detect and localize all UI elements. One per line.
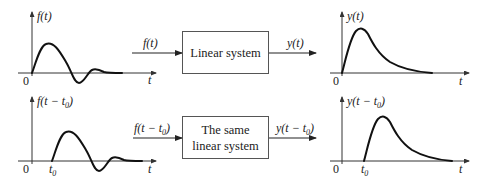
x-axis-label: t	[459, 162, 463, 176]
shift-label: t0	[361, 162, 368, 178]
shifted-output-signal-curve	[364, 117, 452, 161]
x-axis-label: t	[459, 74, 463, 88]
input-plot-bottom: f(t − t0) 0 t0 t	[18, 94, 156, 178]
system-box-label-line2: linear system	[192, 139, 259, 153]
system-box-top: Linear system	[183, 32, 269, 74]
system-box-bottom: The same linear system	[183, 117, 269, 159]
input-arrow-top: f(t)	[132, 36, 182, 53]
output-plot-bottom: y(t − t0) 0 t0 t	[330, 94, 469, 178]
output-arrow-label: y(t)	[286, 36, 304, 50]
output-plot-top: y(t) 0 t	[330, 9, 469, 88]
input-arrow-label: f(t − t0)	[134, 121, 170, 137]
shifted-input-signal-curve	[52, 131, 142, 171]
output-arrow-bottom: y(t − t0)	[269, 121, 316, 138]
input-plot-top: f(t) 0 t	[18, 9, 156, 88]
y-axis-label: f(t)	[37, 9, 52, 23]
output-arrow-label: y(t − t0)	[275, 121, 314, 137]
origin-label: 0	[333, 74, 339, 88]
system-box-label-line1: The same	[201, 123, 250, 137]
origin-label: 0	[23, 162, 29, 176]
x-axis-label: t	[148, 162, 152, 176]
time-invariance-diagram: f(t) 0 t f(t) Linear system y(t) y(t) 0 …	[0, 0, 494, 188]
output-arrow-top: y(t)	[269, 36, 316, 53]
shift-label: t0	[49, 162, 56, 178]
input-arrow-bottom: f(t − t0)	[133, 121, 182, 138]
y-axis-label: f(t − t0)	[37, 94, 73, 110]
origin-label: 0	[333, 162, 339, 176]
y-axis-label: y(t)	[346, 9, 364, 23]
origin-label: 0	[23, 74, 29, 88]
system-box-label: Linear system	[190, 46, 261, 60]
input-arrow-label: f(t)	[143, 36, 158, 50]
y-axis-label: y(t − t0)	[346, 94, 385, 110]
x-axis-label: t	[148, 73, 152, 87]
input-signal-curve	[32, 43, 122, 83]
output-signal-curve	[342, 29, 432, 73]
